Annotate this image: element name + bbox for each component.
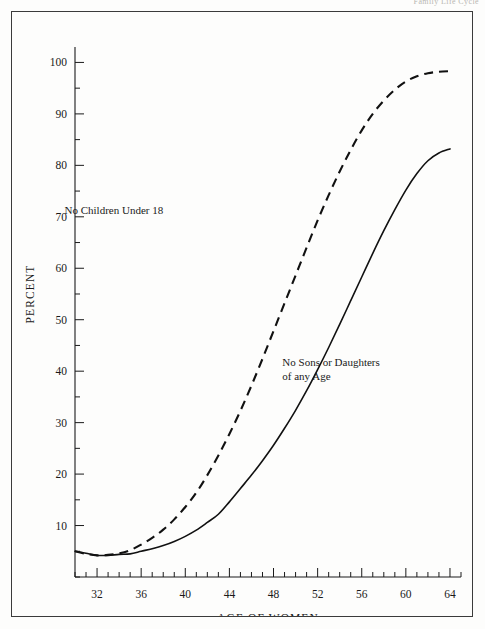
x-tick-label: 32: [91, 588, 103, 600]
x-tick-label: 40: [180, 588, 192, 600]
y-axis-ticks: [75, 62, 84, 577]
series-label-no-sons-or-daughters-line1: No Sons or Daughters: [282, 356, 379, 368]
data-series: [75, 71, 450, 555]
y-tick-label: 90: [56, 108, 68, 120]
y-tick-label: 10: [56, 520, 68, 532]
figure-frame: 102030405060708090100 323640444852566064…: [11, 11, 473, 617]
x-tick-label: 44: [224, 588, 236, 600]
y-axis-title: PERCENT: [24, 265, 36, 324]
x-tick-label: 36: [135, 588, 147, 600]
x-axis-tick-labels: 323640444852566064: [91, 588, 456, 600]
y-tick-label: 60: [56, 262, 68, 274]
x-tick-label: 60: [400, 588, 412, 600]
x-axis-ticks: [75, 568, 461, 577]
x-tick-label: 64: [444, 588, 456, 600]
y-tick-label: 50: [56, 314, 68, 326]
y-tick-label: 20: [56, 468, 68, 480]
series-label-no-children-under-18: No Children Under 18: [65, 204, 164, 216]
x-axis-title: AGE OF WOMEN: [217, 612, 319, 616]
axes: [75, 47, 461, 577]
line-chart: 102030405060708090100 323640444852566064…: [12, 12, 472, 616]
y-tick-label: 80: [56, 159, 68, 171]
figure-page: Family Life Cycle 102030405060708090100 …: [0, 0, 485, 629]
y-tick-label: 100: [50, 56, 68, 68]
y-tick-label: 30: [56, 417, 68, 429]
running-head: Family Life Cycle: [414, 0, 479, 6]
series-line-no-children-under-18: [75, 71, 450, 555]
x-tick-label: 56: [356, 588, 368, 600]
y-axis-tick-labels: 102030405060708090100: [50, 56, 68, 531]
series-label-no-sons-or-daughters-line2: of any Age: [282, 370, 330, 382]
x-tick-label: 48: [268, 588, 280, 600]
x-tick-label: 52: [312, 588, 324, 600]
y-tick-label: 40: [56, 365, 68, 377]
